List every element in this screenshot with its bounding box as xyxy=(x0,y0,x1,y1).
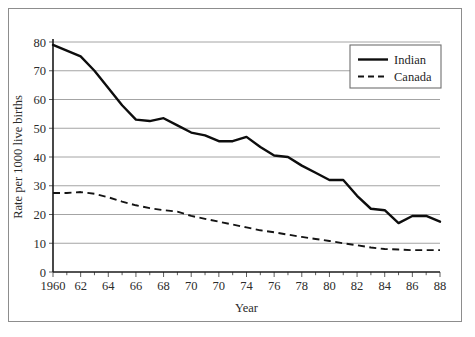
x-axis-title: Year xyxy=(235,301,259,315)
x-tick-label: 68 xyxy=(157,279,170,293)
x-tick-label: 70 xyxy=(213,279,226,293)
chart-figure: 01020304050607080 1960626466687070747678… xyxy=(0,0,475,337)
x-tick-label: 80 xyxy=(323,279,336,293)
legend-label-canada: Canada xyxy=(394,70,432,84)
y-tick-label: 60 xyxy=(34,93,47,107)
y-tick-label: 10 xyxy=(34,237,47,251)
x-tick-label: 88 xyxy=(434,279,447,293)
y-tick-label: 40 xyxy=(34,151,47,165)
y-tick-label: 30 xyxy=(34,179,47,193)
y-axis-title: Rate per 1000 live births xyxy=(11,95,25,219)
y-tick-label: 20 xyxy=(34,208,47,222)
y-tick-label: 70 xyxy=(34,64,47,78)
x-tick-label: 66 xyxy=(130,279,143,293)
x-tick-label: 74 xyxy=(240,279,253,293)
x-tick-label: 70 xyxy=(185,279,198,293)
x-tick-label: 64 xyxy=(102,279,115,293)
legend: Indian Canada xyxy=(350,45,441,88)
x-tick-label: 62 xyxy=(74,279,87,293)
y-tick-label: 0 xyxy=(40,266,46,280)
line-chart: 01020304050607080 1960626466687070747678… xyxy=(0,0,475,337)
y-tick-label: 50 xyxy=(34,122,47,136)
x-tick-label: 82 xyxy=(351,279,364,293)
x-axis-tick-labels: 19606264666870707476788082848688 xyxy=(41,279,447,293)
x-tick-label: 76 xyxy=(268,279,281,293)
x-tick-label: 84 xyxy=(378,279,391,293)
y-axis-tick-labels: 01020304050607080 xyxy=(34,36,54,280)
series-line-canada xyxy=(53,192,440,250)
x-tick-label: 86 xyxy=(406,279,419,293)
legend-label-indian: Indian xyxy=(394,53,427,67)
y-tick-label: 80 xyxy=(34,36,47,50)
x-tick-label: 78 xyxy=(296,279,309,293)
x-tick-label: 1960 xyxy=(41,279,66,293)
